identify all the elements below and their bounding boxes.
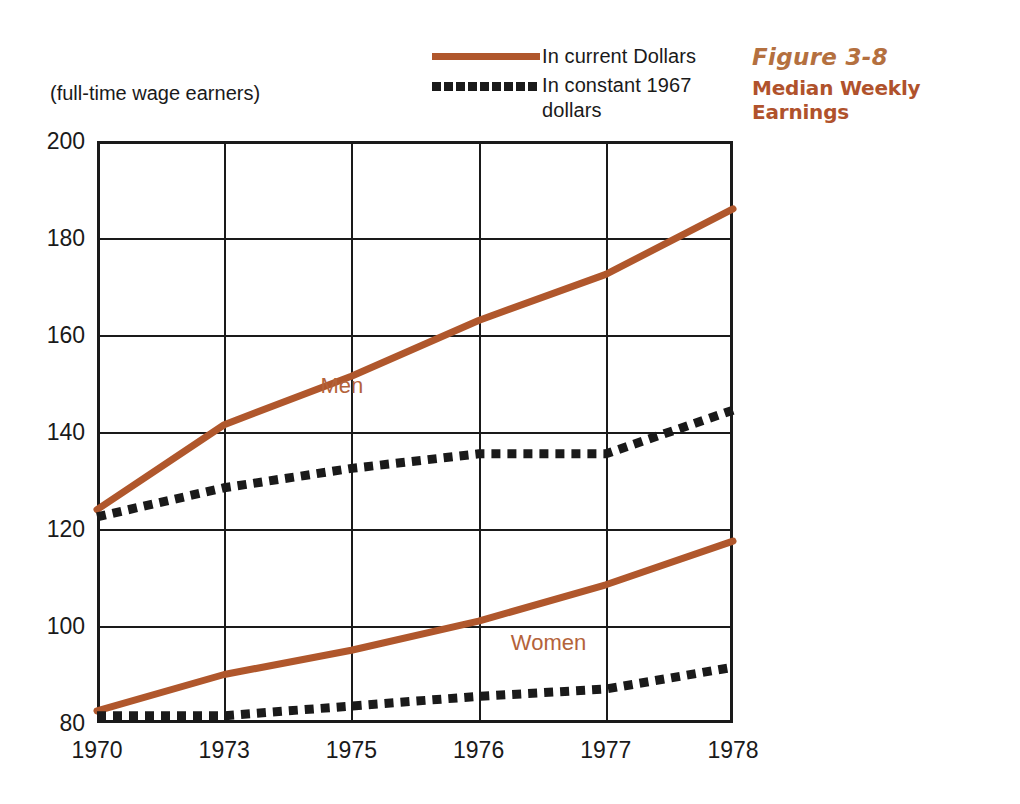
series-label-women: Women <box>511 630 586 656</box>
figure-title-block: Figure 3-8 Median Weekly Earnings <box>752 44 1012 124</box>
x-axis-tick-label: 1976 <box>453 737 504 764</box>
chart-plot-area: 80100120140160180200 1970197319751976197… <box>97 141 733 723</box>
legend-label-current-dollars: In current Dollars <box>542 44 696 69</box>
y-axis-tick-label: 80 <box>59 710 85 737</box>
y-axis-tick-label: 180 <box>47 225 85 252</box>
legend-swatch-wrap <box>432 73 542 91</box>
series-line <box>97 410 733 517</box>
chart-legend: In current Dollars In constant 1967 doll… <box>432 44 742 127</box>
x-axis-tick-label: 1970 <box>71 737 122 764</box>
legend-swatch-wrap <box>432 44 542 60</box>
y-axis-tick-label: 160 <box>47 322 85 349</box>
series-line <box>97 667 733 716</box>
legend-item-current-dollars: In current Dollars <box>432 44 742 69</box>
x-axis-tick-label: 1973 <box>199 737 250 764</box>
y-axis-tick-label: 100 <box>47 613 85 640</box>
y-axis-tick-label: 120 <box>47 516 85 543</box>
solid-line-swatch-icon <box>432 53 540 60</box>
x-axis-tick-label: 1977 <box>580 737 631 764</box>
figure-title: Median Weekly Earnings <box>752 76 1012 124</box>
legend-item-constant-dollars: In constant 1967 dollars <box>432 73 742 123</box>
y-axis-tick-label: 140 <box>47 419 85 446</box>
figure-number: Figure 3-8 <box>752 44 1012 70</box>
dotted-line-swatch-icon <box>432 82 540 91</box>
chart-series-layer <box>97 141 733 723</box>
series-label-men: Men <box>320 373 363 399</box>
chart-subtitle: (full-time wage earners) <box>50 82 260 105</box>
x-axis-tick-label: 1975 <box>326 737 377 764</box>
legend-label-constant-dollars: In constant 1967 dollars <box>542 73 742 123</box>
series-line <box>97 541 733 711</box>
y-axis-tick-label: 200 <box>47 128 85 155</box>
x-axis-tick-label: 1978 <box>707 737 758 764</box>
